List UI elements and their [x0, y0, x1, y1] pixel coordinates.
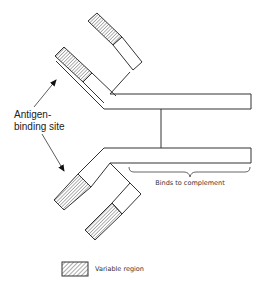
antigen-label-line1: Antigen-	[14, 109, 51, 120]
complement-label: Binds to complement	[155, 179, 225, 187]
arrow-up-icon	[34, 80, 56, 107]
upper-heavy-variable-region	[55, 47, 116, 103]
upper-fab	[55, 13, 251, 109]
upper-light-chain	[88, 13, 142, 70]
complement-brace	[129, 167, 250, 177]
antibody-diagram: Binds to complement Antigen- binding sit…	[0, 0, 266, 285]
lower-light-chain	[85, 163, 141, 240]
legend-swatch	[62, 262, 88, 276]
lower-heavy-chain	[78, 148, 251, 183]
arrow-down-icon	[42, 134, 64, 171]
lower-fab	[54, 148, 251, 240]
antigen-label-line2: binding site	[14, 121, 65, 132]
legend-label: Variable region	[95, 265, 144, 273]
